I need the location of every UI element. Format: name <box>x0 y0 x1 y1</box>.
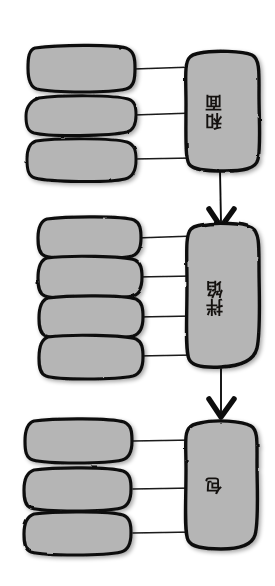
ban-xian-blank-boxes[interactable] <box>38 217 143 379</box>
connector-ban-xian-4 <box>137 355 194 356</box>
he-mian-blank-boxes[interactable] <box>26 45 136 181</box>
blank-box-bao-3 <box>24 512 131 555</box>
blank-box-he-mian-1 <box>28 45 135 92</box>
stage-box-he-mian <box>186 51 260 171</box>
connector-he-mian-1 <box>134 67 193 69</box>
connector-he-mian-2 <box>134 113 193 115</box>
blank-box-he-mian-2 <box>26 96 136 136</box>
blank-box-ban-xian-4 <box>39 335 143 379</box>
bao-blank-boxes[interactable] <box>24 419 132 555</box>
blank-box-ban-xian-3 <box>39 296 143 339</box>
blank-box-bao-2 <box>24 468 131 511</box>
stage-bao-group[interactable] <box>186 421 258 549</box>
arrow-ban-xian-to-bao <box>209 369 234 417</box>
connector-ban-xian-1 <box>136 236 194 238</box>
arrow-he-mian-to-ban-xian <box>209 171 234 227</box>
blank-box-ban-xian-1 <box>38 217 141 259</box>
blank-box-ban-xian-2 <box>38 256 142 299</box>
stage-box-ban-xian <box>187 223 260 367</box>
diagram-canvas: 和面 拌馅 包 <box>0 0 275 586</box>
blank-box-bao-1 <box>25 419 132 463</box>
stage-box-bao <box>186 421 258 549</box>
connector-he-mian-3 <box>134 158 193 159</box>
stage-ban-xian-group[interactable] <box>187 223 260 367</box>
blank-box-he-mian-3 <box>27 139 136 182</box>
stage-he-mian-group[interactable] <box>186 51 260 171</box>
sketch-layer <box>0 0 275 586</box>
